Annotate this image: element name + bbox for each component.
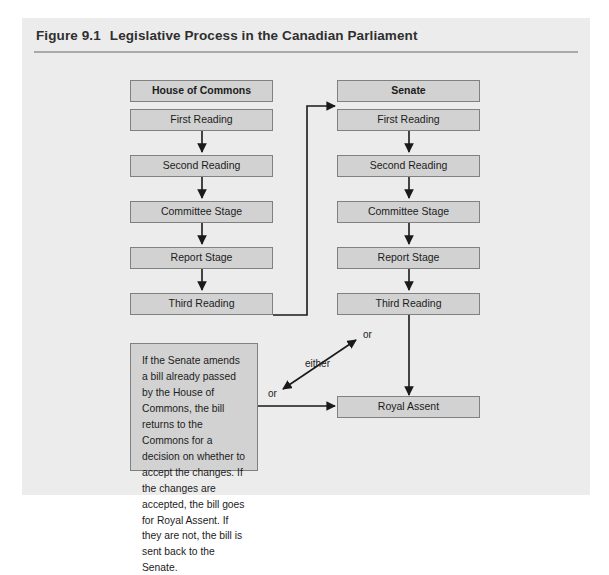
- note-text: If the Senate amends a bill already pass…: [142, 355, 245, 573]
- node-royal-assent[interactable]: Royal Assent: [337, 396, 480, 418]
- node-senate-report-stage[interactable]: Report Stage: [337, 247, 480, 269]
- note-box-senate-amendment[interactable]: If the Senate amends a bill already pass…: [130, 343, 258, 471]
- edge-label-or-upper: or: [363, 329, 372, 340]
- node-house-second-reading[interactable]: Second Reading: [130, 155, 273, 177]
- figure-panel: Figure 9.1Legislative Process in the Can…: [22, 18, 590, 495]
- node-label: Second Reading: [163, 160, 241, 172]
- node-senate-second-reading[interactable]: Second Reading: [337, 155, 480, 177]
- node-house-of-commons-header[interactable]: House of Commons: [130, 80, 273, 102]
- node-label: Third Reading: [376, 298, 442, 310]
- node-senate-header[interactable]: Senate: [337, 80, 480, 102]
- node-label: Report Stage: [378, 252, 440, 264]
- flowchart-connectors: [22, 18, 590, 495]
- node-house-report-stage[interactable]: Report Stage: [130, 247, 273, 269]
- node-label: Second Reading: [370, 160, 448, 172]
- node-label: First Reading: [377, 114, 439, 126]
- node-house-third-reading[interactable]: Third Reading: [130, 293, 273, 315]
- node-label: Committee Stage: [161, 206, 242, 218]
- node-label: Report Stage: [171, 252, 233, 264]
- node-label: First Reading: [170, 114, 232, 126]
- node-label: Royal Assent: [378, 401, 439, 413]
- node-label: House of Commons: [152, 85, 251, 97]
- node-label: Senate: [391, 85, 425, 97]
- edge-label-or-lower: or: [268, 388, 277, 399]
- node-senate-first-reading[interactable]: First Reading: [337, 109, 480, 131]
- node-house-first-reading[interactable]: First Reading: [130, 109, 273, 131]
- node-label: Committee Stage: [368, 206, 449, 218]
- flowchart: House of Commons First Reading Second Re…: [22, 18, 590, 495]
- node-house-committee-stage[interactable]: Committee Stage: [130, 201, 273, 223]
- node-senate-committee-stage[interactable]: Committee Stage: [337, 201, 480, 223]
- edge-label-either: either: [305, 358, 330, 369]
- node-senate-third-reading[interactable]: Third Reading: [337, 293, 480, 315]
- node-label: Third Reading: [169, 298, 235, 310]
